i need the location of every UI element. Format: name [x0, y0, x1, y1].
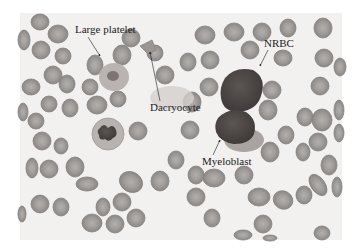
- label-dacryocyte: Dacryocyte: [150, 101, 201, 113]
- label-myeloblast: Myeloblast: [202, 155, 252, 167]
- large-platelet-cell: [99, 63, 129, 91]
- label-large-platelet: Large platelet: [75, 23, 136, 35]
- blood-smear-figure: Large platelet Dacryocyte NRBC Myeloblas…: [0, 0, 359, 249]
- neutrophil-cell: [92, 118, 124, 150]
- label-nrbc: NRBC: [264, 37, 294, 49]
